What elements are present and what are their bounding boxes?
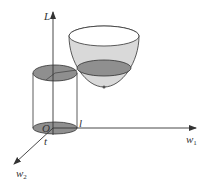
w1-axis-label: w1 <box>186 133 197 147</box>
cylinder <box>33 65 77 134</box>
l-axis-label: L <box>43 10 50 22</box>
depth-label: t <box>44 135 48 147</box>
w2-axis-label: w2 <box>16 167 27 181</box>
origin-label: O <box>42 122 50 134</box>
paraboloid <box>69 26 139 89</box>
radius-label: l <box>79 117 82 129</box>
diagram-canvas: L w1 w2 O l t <box>0 0 205 182</box>
